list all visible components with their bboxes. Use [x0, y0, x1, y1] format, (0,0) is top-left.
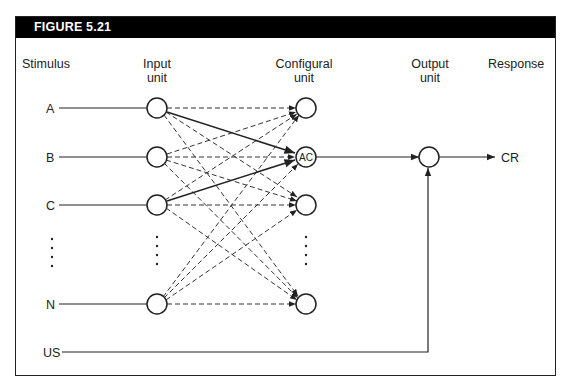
stimulus-c-label: C	[46, 199, 55, 213]
input-unit-header-2: unit	[147, 71, 168, 85]
stimulus-n-label: N	[46, 298, 55, 312]
stimulus-b-label: B	[46, 151, 54, 165]
input-node-b	[147, 147, 167, 167]
us-label: US	[43, 346, 60, 360]
input-node-c	[147, 195, 167, 215]
configural-units	[296, 98, 316, 314]
ellipsis-dots	[51, 236, 307, 267]
stimulus-lines	[59, 108, 147, 304]
stimulus-header: Stimulus	[22, 57, 70, 71]
us-line	[62, 168, 428, 352]
input-units	[147, 98, 167, 314]
configural-unit-header-2: unit	[294, 71, 315, 85]
input-node-n	[147, 294, 167, 314]
input-unit-header-1: Input	[143, 57, 171, 71]
cr-label: CR	[501, 151, 519, 165]
ac-label: AC	[299, 152, 313, 163]
output-unit-header-1: Output	[411, 57, 449, 71]
network-diagram: Stimulus Input unit Configural unit Outp…	[0, 0, 569, 388]
response-header: Response	[488, 57, 544, 71]
dashed-connections	[163, 108, 299, 304]
output-unit-header-2: unit	[420, 71, 441, 85]
stimulus-a-label: A	[46, 102, 55, 116]
input-node-a	[147, 98, 167, 118]
configural-unit-header-1: Configural	[276, 57, 333, 71]
output-node	[419, 147, 439, 167]
